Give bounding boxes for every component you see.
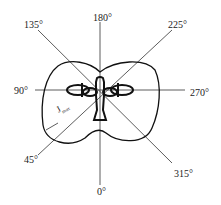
label-90: 90° bbox=[14, 86, 28, 96]
label-225: 225° bbox=[168, 20, 187, 30]
outer-contour bbox=[42, 62, 159, 143]
label-315: 315° bbox=[174, 169, 193, 179]
label-270: 270° bbox=[190, 88, 209, 98]
radius-marker bbox=[46, 123, 58, 130]
label-0: 0° bbox=[97, 187, 106, 197]
axis-diag-135-315 bbox=[38, 30, 172, 163]
label-180: 180° bbox=[93, 13, 112, 23]
label-45: 45° bbox=[24, 155, 38, 165]
label-135: 135° bbox=[24, 20, 43, 30]
